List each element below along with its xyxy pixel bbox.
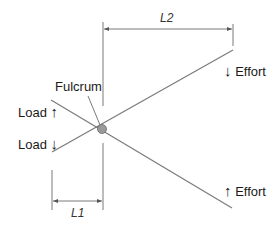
lever-line-a: [51, 100, 232, 208]
l1-arrowhead-left: [53, 199, 58, 203]
l1-label: L1: [71, 207, 84, 219]
load-up-label: Load ↑: [18, 104, 58, 119]
load-down-text: Load: [18, 137, 47, 152]
effort-up-label: ↑ Effort: [224, 183, 266, 198]
l2-arrowhead-left: [104, 27, 109, 31]
l2-label: L2: [160, 12, 173, 24]
fulcrum-pivot: [98, 125, 107, 134]
fulcrum-leader: [88, 96, 100, 125]
l1-arrowhead-right: [97, 199, 102, 203]
arrow-down-icon: ↓: [224, 62, 232, 79]
load-up-text: Load: [18, 105, 47, 120]
load-down-label: Load ↓: [18, 136, 58, 151]
effort-up-text: Effort: [235, 184, 266, 199]
l2-arrowhead-right: [227, 27, 232, 31]
effort-down-label: ↓ Effort: [224, 63, 266, 78]
effort-down-text: Effort: [235, 64, 266, 79]
arrow-up-icon: ↑: [224, 182, 232, 199]
fulcrum-label: Fulcrum: [55, 80, 102, 93]
arrow-down-icon: ↓: [51, 135, 59, 152]
lever-line-b: [52, 50, 233, 152]
arrow-up-icon: ↑: [51, 103, 59, 120]
